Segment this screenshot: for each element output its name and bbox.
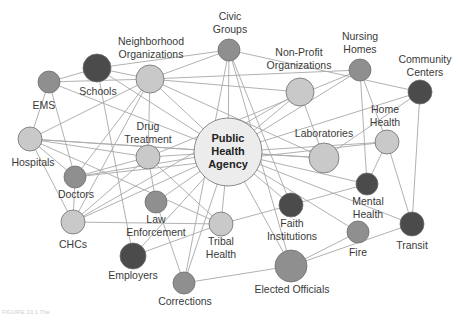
label-employers: Employers (108, 269, 158, 281)
label-tribal: TribalHealth (206, 235, 237, 260)
node-drug (136, 145, 160, 169)
node-elected (275, 250, 307, 282)
node-nursing (349, 59, 371, 81)
node-law (145, 191, 167, 213)
node-nonprofit (286, 78, 314, 106)
label-home: HomeHealth (370, 103, 401, 128)
label-neigh: NeighborhoodOrganizations (118, 35, 184, 60)
edge-hospitals-tribal (30, 139, 221, 224)
label-elected: Elected Officials (254, 283, 329, 295)
label-nonprofit: Non-ProfitOrganizations (267, 46, 332, 71)
label-transit: Transit (396, 239, 428, 251)
center-node-label: PublicHealthAgency (208, 132, 249, 170)
label-mental: MentalHealth (352, 195, 384, 220)
label-labs: Laboratories (295, 127, 353, 139)
edge-chcs-nonprofit (73, 92, 300, 222)
node-labs (309, 143, 339, 173)
label-hospitals: Hospitals (11, 156, 54, 168)
network-diagram: PublicHealthAgency CivicGroupsNeighborho… (0, 0, 460, 316)
edge-community-transit (412, 92, 420, 224)
edge-civic-community (229, 50, 420, 92)
node-home (375, 130, 399, 154)
label-faith: FaithInstitutions (267, 217, 317, 242)
label-fire: Fire (349, 246, 367, 258)
node-fire (347, 221, 369, 243)
edge-neigh-nonprofit (150, 79, 300, 92)
label-nursing: NursingHomes (342, 30, 378, 55)
node-employers (120, 243, 146, 269)
node-hospitals (18, 127, 42, 151)
node-faith (279, 193, 303, 217)
label-doctors: Doctors (58, 188, 94, 200)
label-corrections: Corrections (158, 295, 212, 307)
node-neigh (136, 65, 164, 93)
label-law: LawEnforcement (126, 213, 186, 238)
label-schools: Schools (79, 85, 116, 97)
node-tribal (209, 212, 233, 236)
label-chcs: CHCs (59, 238, 87, 250)
edge-home-transit (387, 142, 412, 224)
edge-neigh-nursing (150, 70, 360, 79)
label-civic: CivicGroups (213, 10, 247, 35)
node-transit (400, 212, 424, 236)
node-civic (218, 39, 240, 61)
node-corrections (173, 272, 195, 294)
node-community (408, 80, 432, 104)
label-community: CommunityCenters (398, 53, 452, 78)
node-ems (38, 71, 60, 93)
label-ems: EMS (33, 99, 56, 111)
node-mental (356, 173, 378, 195)
node-chcs (61, 210, 85, 234)
figure-caption: FIGURE 10.1 The (2, 309, 51, 315)
node-schools (83, 54, 111, 82)
node-doctors (64, 166, 86, 188)
label-drug: DrugTreatment (124, 120, 172, 145)
